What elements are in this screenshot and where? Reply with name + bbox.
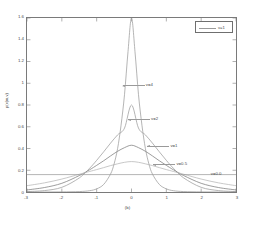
x-tick-label: 2 (194, 195, 210, 200)
y-tick-label: 0.2 (0, 168, 24, 173)
curve-v2 (27, 105, 236, 192)
annotation-leader-line (128, 119, 150, 120)
x-tick-label: 0 (124, 195, 140, 200)
x-tick-label: 3 (229, 195, 245, 200)
y-tick-label: 1.2 (0, 58, 24, 63)
x-axis-label: (b) (0, 205, 255, 210)
annotation-v05: v=0.5 (176, 161, 187, 166)
x-tick-label: -3 (18, 195, 34, 200)
x-tick-label: 1 (159, 195, 175, 200)
y-tick-label: 0.6 (0, 124, 24, 129)
plot-curves (27, 18, 236, 192)
x-tick-label: -1 (88, 195, 104, 200)
legend-box: v=1 (195, 21, 233, 33)
annotation-v1: v=1 (170, 143, 177, 148)
y-tick-label: 1.6 (0, 14, 24, 19)
annotation-leader-line (123, 85, 145, 86)
x-tick-label: -2 (53, 195, 69, 200)
annotation-v4: v=4 (146, 82, 153, 87)
plot-area (26, 17, 237, 193)
annotation-leader-line (147, 146, 169, 147)
legend-line-sample (199, 28, 216, 29)
legend-entry-label: v=1 (218, 25, 225, 30)
annotation-v2: v=2 (151, 116, 158, 121)
y-axis-label: p(x|m,v) (4, 81, 9, 121)
y-tick-label: 1.4 (0, 36, 24, 41)
figure-canvas: 00.20.40.60.811.21.41.6 -3-2-10123 (b) p… (0, 0, 255, 227)
annotation-leader-line (153, 164, 175, 165)
y-tick-label: 0.4 (0, 146, 24, 151)
curve-v1 (27, 145, 236, 190)
curve-v05 (27, 162, 236, 186)
annotation-v00: v=0.0 (211, 171, 222, 176)
